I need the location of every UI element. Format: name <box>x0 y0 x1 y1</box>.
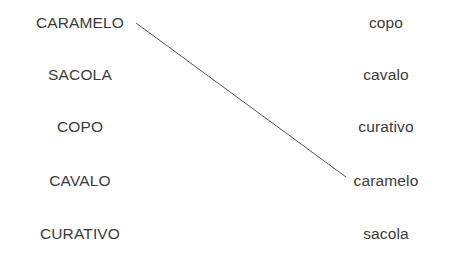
left-word-item[interactable]: CAVALO <box>0 172 160 190</box>
right-word-item[interactable]: sacola <box>315 225 457 243</box>
right-word-item[interactable]: copo <box>315 14 457 32</box>
left-word-item[interactable]: CARAMELO <box>0 14 160 32</box>
right-word-item[interactable]: curativo <box>315 118 457 136</box>
left-word-item[interactable]: CURATIVO <box>0 225 160 243</box>
right-word-item[interactable]: caramelo <box>315 172 457 190</box>
matching-exercise-canvas: CARAMELO SACOLA COPO CAVALO CURATIVO cop… <box>0 0 457 263</box>
right-word-item[interactable]: cavalo <box>315 66 457 84</box>
left-word-item[interactable]: COPO <box>0 118 160 136</box>
left-word-column: CARAMELO SACOLA COPO CAVALO CURATIVO <box>0 0 160 263</box>
right-word-column: copo cavalo curativo caramelo sacola <box>315 0 457 263</box>
left-word-item[interactable]: SACOLA <box>0 66 160 84</box>
